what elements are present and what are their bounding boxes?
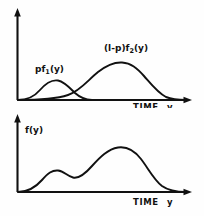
panel-components: pf1(y) (l-p)f2(y) TIME y bbox=[0, 0, 204, 108]
figure-root: pf1(y) (l-p)f2(y) TIME y f(y) TIME y bbox=[0, 0, 204, 216]
curve-mixture bbox=[18, 147, 186, 192]
label-mixture: f(y) bbox=[25, 125, 43, 135]
panel-mixture: f(y) TIME y bbox=[0, 108, 204, 216]
x-axis-label-var-bottom: y bbox=[167, 197, 173, 207]
x-axis-label-bottom: TIME bbox=[133, 197, 159, 207]
label-component-1: pf1(y) bbox=[35, 64, 64, 76]
label-component-2: (l-p)f2(y) bbox=[104, 43, 148, 55]
y-axis-arrow-bottom bbox=[14, 114, 21, 123]
y-axis-arrow-top bbox=[14, 8, 21, 17]
curve-component-1 bbox=[18, 80, 186, 100]
